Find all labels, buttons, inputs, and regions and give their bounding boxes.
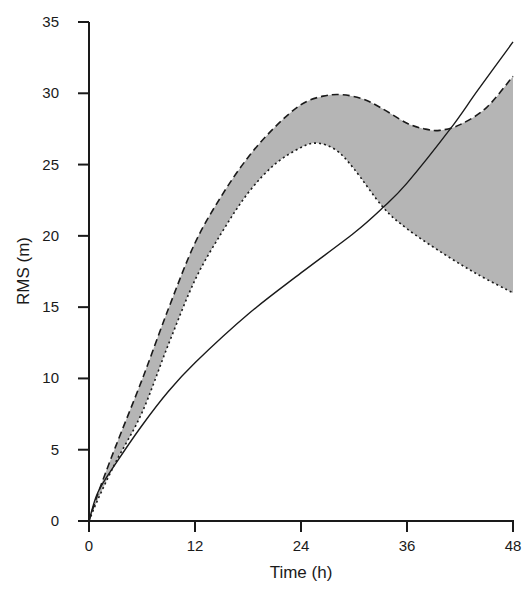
y-tick-label: 15 [42, 298, 59, 315]
x-tick-label: 36 [399, 537, 416, 554]
x-axis-ticks: 012243648 [85, 521, 522, 554]
y-axis-ticks: 05101520253035 [42, 13, 89, 529]
y-tick-label: 10 [42, 369, 59, 386]
uncertainty-band-area [89, 76, 513, 521]
y-tick-label: 25 [42, 156, 59, 173]
x-tick-label: 24 [293, 537, 310, 554]
x-tick-label: 48 [505, 537, 522, 554]
y-tick-label: 30 [42, 84, 59, 101]
y-axis-label: RMS (m) [14, 237, 33, 305]
x-axis-label: Time (h) [270, 563, 333, 582]
y-tick-label: 35 [42, 13, 59, 30]
x-tick-label: 12 [187, 537, 204, 554]
y-tick-label: 5 [51, 441, 59, 458]
axes [78, 22, 514, 522]
y-tick-label: 20 [42, 227, 59, 244]
x-tick-label: 0 [85, 537, 93, 554]
rms-chart: 05101520253035 012243648 Time (h) RMS (m… [0, 0, 532, 590]
y-tick-label: 0 [51, 512, 59, 529]
uncertainty-band [89, 76, 513, 521]
